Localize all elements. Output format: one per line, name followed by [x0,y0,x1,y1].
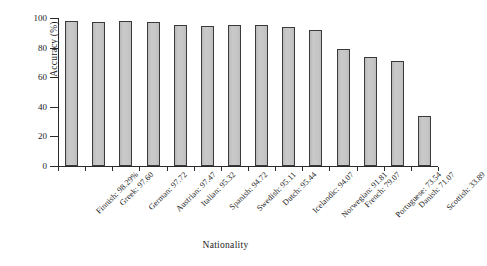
y-axis-tick [50,136,58,137]
bar [119,21,132,166]
y-axis-tick [50,48,58,49]
bar [228,25,241,166]
bar [147,22,160,166]
x-axis-tick-labels: Finnish: 98.29%Greek: 97.60German: 97.72… [58,170,448,240]
y-axis-tick [50,107,58,108]
bar [364,57,377,166]
y-axis-tick [50,166,58,167]
bar [174,25,187,166]
y-axis-tick-label: 60 [38,72,47,82]
bar [391,61,404,166]
y-axis-tick-label: 40 [38,102,47,112]
y-axis-tick [50,18,58,19]
y-axis-tick [50,77,58,78]
y-axis-tick-label: 20 [38,131,47,141]
bar [92,22,105,166]
y-axis-tick-label: 100 [34,13,48,23]
bar-series [58,18,438,166]
y-axis-tick-label: 0 [43,161,48,171]
bar [255,25,268,166]
bar [418,116,431,166]
y-axis-tick-label: 80 [38,43,47,53]
x-axis-title: Nationality [0,240,451,250]
bar [309,30,322,166]
bar [337,49,350,166]
bar [282,27,295,166]
plot-area: 020406080100 [58,18,438,166]
bar [201,26,214,166]
bar [65,21,78,166]
